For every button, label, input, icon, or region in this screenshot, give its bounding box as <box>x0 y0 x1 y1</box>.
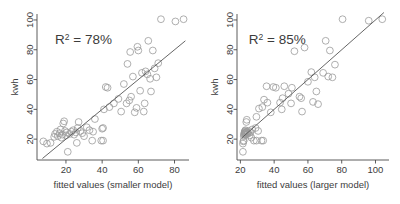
data-point <box>248 134 255 141</box>
y-axis-title: kwh <box>209 79 220 96</box>
y-tick-label: 100 <box>225 12 236 28</box>
data-point <box>135 47 142 54</box>
data-point <box>158 16 165 23</box>
data-point <box>64 148 71 155</box>
data-point <box>115 96 122 103</box>
x-tick-label: 60 <box>303 164 314 175</box>
panel-smaller-model: 2040608020406080100fitted values (smalle… <box>0 0 200 204</box>
y-tick-label: 60 <box>25 74 36 85</box>
data-point <box>149 47 156 54</box>
data-point <box>137 87 144 94</box>
data-point <box>288 100 295 107</box>
data-point <box>148 88 155 95</box>
data-point <box>258 137 265 144</box>
data-point <box>140 108 147 115</box>
data-point <box>83 124 90 131</box>
y-tick-label: 60 <box>225 74 236 85</box>
data-point <box>133 104 140 111</box>
x-tick-label: 80 <box>336 164 347 175</box>
data-point <box>263 83 270 90</box>
data-point <box>127 49 134 56</box>
x-tick-label: 40 <box>269 164 280 175</box>
data-point <box>299 108 306 115</box>
data-point <box>281 83 288 90</box>
data-point <box>278 106 285 113</box>
data-point <box>260 137 267 144</box>
data-point <box>180 16 187 23</box>
y-axis-title: kwh <box>9 79 20 96</box>
x-tick-label: 80 <box>169 164 180 175</box>
x-axis-title: fitted values (larger model) <box>257 179 369 190</box>
data-point <box>73 139 80 146</box>
x-tick-label: 40 <box>97 164 108 175</box>
data-point <box>255 128 262 135</box>
x-tick-label: 60 <box>133 164 144 175</box>
data-point <box>61 118 68 125</box>
r2-symbol: R <box>55 32 65 47</box>
data-point <box>111 100 118 107</box>
data-point <box>296 93 303 100</box>
data-point <box>329 74 336 81</box>
r2-annotation: R2 = 85% <box>249 32 306 47</box>
data-point <box>130 73 137 80</box>
data-point <box>332 61 339 68</box>
data-point <box>124 61 131 68</box>
data-point <box>365 17 372 24</box>
x-tick-label: 100 <box>368 164 384 175</box>
panel-larger-model: 2040608010020406080100fitted values (lar… <box>200 0 400 204</box>
r2-value: = 78% <box>70 32 112 47</box>
data-point <box>322 37 329 44</box>
y-tick-label: 40 <box>225 104 236 115</box>
y-tick-label: 20 <box>225 134 236 145</box>
scatter-plot-figure: 2040608020406080100fitted values (smalle… <box>0 0 400 204</box>
data-point <box>145 37 152 44</box>
data-point <box>291 48 298 55</box>
data-point <box>131 109 138 116</box>
data-point <box>92 116 99 123</box>
data-point <box>311 74 318 81</box>
data-point <box>120 81 127 88</box>
data-point <box>141 100 148 107</box>
data-point <box>339 16 346 23</box>
y-tick-label: 100 <box>25 12 36 28</box>
data-point <box>253 113 260 120</box>
r2-value: = 85% <box>263 32 305 47</box>
data-point <box>326 47 333 54</box>
data-point <box>379 16 386 23</box>
x-tick-label: 20 <box>61 164 72 175</box>
data-point <box>98 137 105 144</box>
r2-annotation: R2 = 78% <box>55 32 112 47</box>
data-point <box>100 137 107 144</box>
data-point <box>123 100 130 107</box>
data-point <box>298 95 305 102</box>
data-point <box>172 18 179 25</box>
y-tick-label: 20 <box>25 134 36 145</box>
data-point <box>288 84 295 91</box>
plot-canvas-left: 2040608020406080100fitted values (smalle… <box>0 0 200 204</box>
r2-symbol: R <box>249 32 259 47</box>
data-point <box>240 148 247 155</box>
data-point <box>118 108 125 115</box>
data-point <box>153 74 160 81</box>
reference-line <box>42 41 185 159</box>
plot-canvas-right: 2040608010020406080100fitted values (lar… <box>200 0 400 204</box>
y-tick-label: 40 <box>25 104 36 115</box>
data-point <box>89 137 96 144</box>
data-point <box>313 88 320 95</box>
x-axis-title: fitted values (smaller model) <box>54 179 173 190</box>
y-tick-label: 80 <box>25 44 36 55</box>
y-tick-label: 80 <box>225 44 236 55</box>
x-tick-label: 20 <box>235 164 246 175</box>
